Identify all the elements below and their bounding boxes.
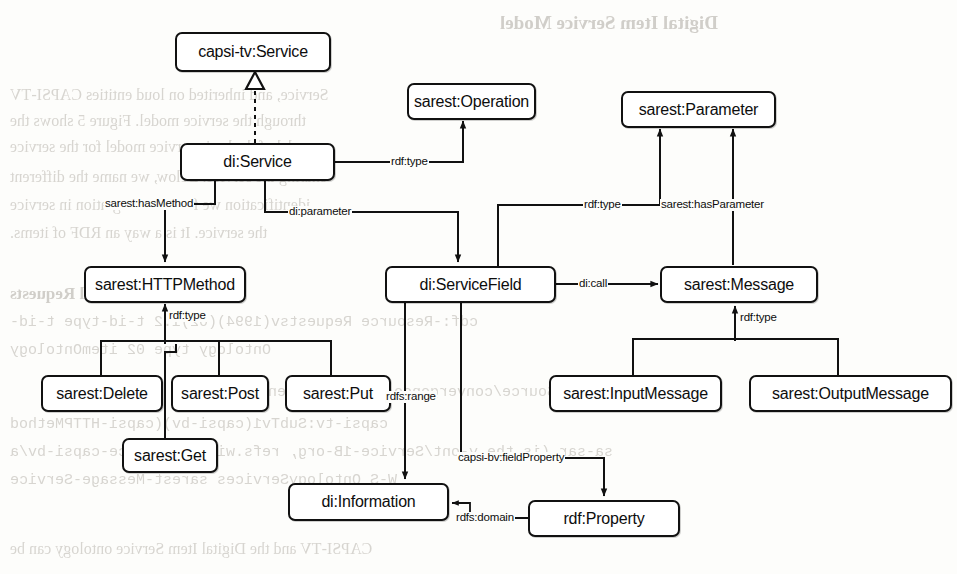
node-label: sarest:Post <box>181 386 259 402</box>
node-sarest-put[interactable]: sarest:Put <box>285 375 391 412</box>
node-sarest-post[interactable]: sarest:Post <box>171 375 269 412</box>
node-label: sarest:Operation <box>414 94 529 110</box>
edge-label-rdftype-httpmethod: rdf:type <box>168 310 207 322</box>
node-sarest-get[interactable]: sarest:Get <box>122 438 218 473</box>
edge-rdftype-message-fanin <box>633 306 838 375</box>
node-sarest-parameter[interactable]: sarest:Parameter <box>621 91 776 128</box>
node-label: sarest:Delete <box>56 386 148 402</box>
node-label: sarest:Get <box>134 448 206 464</box>
node-sarest-inputmessage[interactable]: sarest:InputMessage <box>549 375 722 412</box>
edge-parameter-di-service-servicefield <box>265 180 458 262</box>
edge-label-hasmethod: sarest:hasMethod <box>104 198 194 210</box>
edge-hasmethod-di-service-httpmethod <box>165 180 215 262</box>
node-label: rdf:Property <box>563 511 644 527</box>
edge-label-rdftype-parameter: rdf:type <box>583 199 622 211</box>
edge-label-rdftype-message: rdf:type <box>739 312 778 324</box>
node-label: sarest:HTTPMethod <box>95 277 235 293</box>
edge-label-di-call: di:call <box>578 278 608 290</box>
node-label: sarest:Parameter <box>639 102 759 118</box>
node-label: sarest:InputMessage <box>563 386 708 402</box>
node-sarest-outputmessage[interactable]: sarest:OutputMessage <box>749 375 952 412</box>
node-sarest-operation[interactable]: sarest:Operation <box>407 83 536 120</box>
node-label: di:Service <box>223 154 291 170</box>
node-label: sarest:OutputMessage <box>772 386 929 402</box>
edge-label-di-parameter: di:parameter <box>288 206 352 218</box>
node-label: capsi-tv:Service <box>198 44 308 60</box>
edge-label-rdfs-domain: rdfs:domain <box>455 512 515 524</box>
node-rdf-property[interactable]: rdf:Property <box>528 500 680 537</box>
edge-label-fieldproperty: capsi-bv:fieldProperty <box>457 452 565 464</box>
edge-label-hasparameter: sarest:hasParameter <box>660 199 765 211</box>
edge-label-rdfs-range: rdfs:range <box>385 391 437 403</box>
node-label: di:ServiceField <box>420 277 522 293</box>
node-sarest-delete[interactable]: sarest:Delete <box>41 375 163 412</box>
node-label: di:Information <box>321 494 415 510</box>
edge-subclass-di-service-capsi-tv-service <box>246 72 264 143</box>
edge-rdftype-servicefield-parameter <box>498 129 660 266</box>
node-di-information[interactable]: di:Information <box>288 483 449 521</box>
diagram-canvas: Digital Item Service Model Service, and … <box>0 0 957 574</box>
node-sarest-message[interactable]: sarest:Message <box>660 266 818 303</box>
edge-label-rdftype-operation: rdf:type <box>390 156 429 168</box>
node-sarest-httpmethod[interactable]: sarest:HTTPMethod <box>84 266 246 303</box>
node-capsi-tv-service[interactable]: capsi-tv:Service <box>175 32 331 72</box>
node-di-service[interactable]: di:Service <box>180 143 335 181</box>
node-label: sarest:Put <box>303 386 373 402</box>
node-di-servicefield[interactable]: di:ServiceField <box>385 266 556 303</box>
node-label: sarest:Message <box>684 277 794 293</box>
edge-rdftype-httpmethod-fanin <box>101 304 331 438</box>
